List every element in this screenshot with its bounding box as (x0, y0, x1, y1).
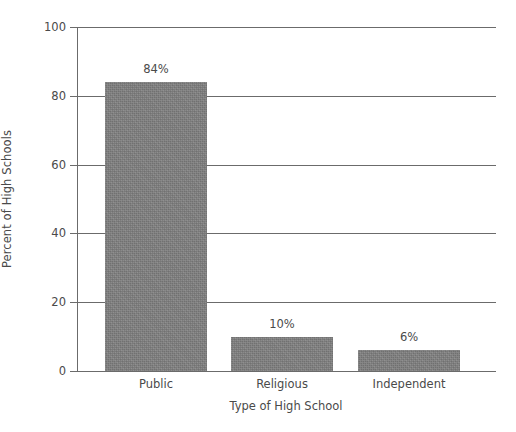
y-tick-20 (70, 302, 77, 303)
bar-value-label-religious: 10% (269, 317, 295, 331)
y-axis-line (77, 27, 78, 372)
bar-public (105, 82, 207, 371)
x-tick-label-independent: Independent (373, 377, 446, 391)
bar-religious (231, 337, 333, 371)
bar-value-label-independent: 6% (400, 330, 418, 344)
y-tick-0 (70, 371, 77, 372)
y-tick-80 (70, 96, 77, 97)
y-tick-label-100: 100 (44, 20, 66, 34)
bar-chart: 020406080100 Percent of High Schools Pub… (0, 0, 516, 432)
y-tick-label-40: 40 (51, 226, 66, 240)
x-tick-label-public: Public (139, 377, 173, 391)
gridline-100 (77, 27, 496, 28)
y-tick-label-60: 60 (51, 158, 66, 172)
y-axis-title: Percent of High Schools (0, 130, 14, 268)
x-tick-label-religious: Religious (256, 377, 308, 391)
y-tick-100 (70, 27, 77, 28)
y-tick-60 (70, 165, 77, 166)
y-tick-label-80: 80 (51, 89, 66, 103)
gridline-0 (77, 371, 496, 372)
x-axis-title: Type of High School (229, 399, 342, 413)
bar-value-label-public: 84% (143, 62, 169, 76)
y-tick-label-20: 20 (51, 295, 66, 309)
y-tick-label-0: 0 (59, 364, 66, 378)
bar-independent (358, 350, 460, 371)
y-tick-40 (70, 233, 77, 234)
